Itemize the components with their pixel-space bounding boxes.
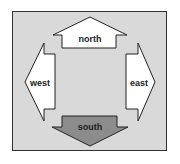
- south-label: south: [78, 122, 103, 132]
- east-label: east: [130, 78, 148, 88]
- north-label: north: [79, 34, 102, 44]
- west-label: west: [29, 78, 50, 88]
- compass-direction-diagram: north west east south: [0, 0, 180, 164]
